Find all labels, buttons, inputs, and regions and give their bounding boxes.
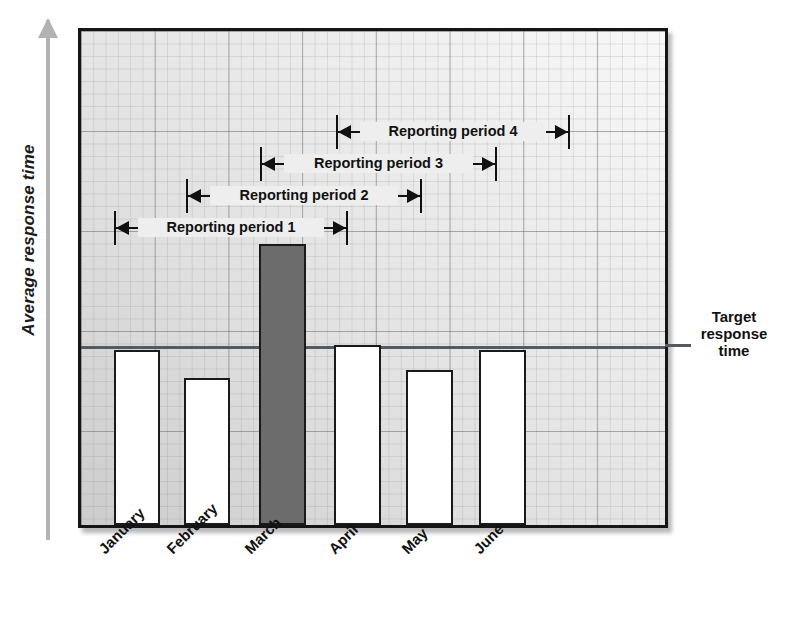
bar-chart-figure: Average response time Reporting period 1 (0, 0, 789, 621)
reporting-period-2-bracket: Reporting period 2 (186, 179, 422, 213)
bar-may[interactable] (406, 370, 453, 525)
arrow-right-icon (407, 189, 420, 203)
bar-april[interactable] (334, 345, 381, 525)
target-response-time-label: Target response time (684, 308, 784, 359)
reporting-period-1-label: Reporting period 1 (138, 218, 324, 237)
reporting-period-1-bracket: Reporting period 1 (114, 211, 348, 245)
arrow-left-icon (116, 221, 129, 235)
arrow-left-icon (262, 157, 275, 171)
reporting-period-4-label: Reporting period 4 (360, 122, 546, 141)
arrow-right-icon (333, 221, 346, 235)
target-label-line-3: time (684, 342, 784, 359)
bracket-cap-right (420, 179, 422, 213)
arrow-right-icon (555, 125, 568, 139)
target-label-line-2: response (684, 325, 784, 342)
plot-area: Reporting period 1 Reporting period 2 Re… (78, 28, 668, 528)
bracket-cap-right (568, 115, 570, 149)
arrow-left-icon (188, 189, 201, 203)
bar-june[interactable] (479, 350, 526, 525)
bar-march[interactable] (259, 244, 306, 525)
reporting-period-3-bracket: Reporting period 3 (260, 147, 497, 181)
bracket-cap-right (346, 211, 348, 245)
arrow-left-icon (338, 125, 351, 139)
y-axis-line (46, 20, 50, 540)
target-label-line-1: Target (684, 308, 784, 325)
reporting-period-4-bracket: Reporting period 4 (336, 115, 570, 149)
x-tick-may: May (398, 524, 431, 557)
arrow-right-icon (482, 157, 495, 171)
y-axis-label: Average response time (17, 115, 41, 365)
up-arrow-icon (38, 18, 58, 38)
bar-january[interactable] (114, 350, 160, 525)
bracket-cap-right (495, 147, 497, 181)
reporting-period-3-label: Reporting period 3 (284, 154, 473, 173)
reporting-period-2-label: Reporting period 2 (210, 186, 398, 205)
